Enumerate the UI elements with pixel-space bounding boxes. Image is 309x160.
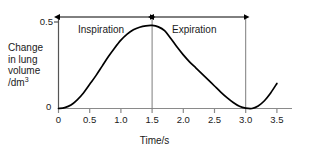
- x-tick-label-1.5: 1.5: [145, 114, 158, 125]
- y-axis-title-line-4: /dm3: [8, 77, 56, 89]
- y-axis-unit: /dm: [8, 77, 25, 88]
- lung-volume-curve: [59, 25, 277, 108]
- x-axis-title: Time/s: [0, 135, 309, 146]
- x-tick-label-2.5: 2.5: [208, 114, 221, 125]
- x-tick-label-3.0: 3.0: [239, 114, 252, 125]
- y-axis-unit-exponent: 3: [25, 75, 29, 82]
- y-tick-label-0: 0: [46, 101, 51, 112]
- y-axis-title-line-3: volume: [8, 65, 56, 77]
- x-tick-label-1.0: 1.0: [114, 114, 127, 125]
- y-tick-label-0.5: 0.5: [40, 16, 53, 27]
- x-tick-label-2.0: 2.0: [177, 114, 190, 125]
- y-axis-title-line-1: Change: [8, 42, 56, 54]
- annotation-label-inspiration: Inspiration: [78, 24, 124, 35]
- chart-figure: Change in lung volume /dm3 0.5 0 Inspira…: [0, 0, 309, 160]
- y-axis-title: Change in lung volume /dm3: [8, 42, 56, 88]
- y-axis-title-line-2: in lung: [8, 54, 56, 66]
- annotation-label-expiration: Expiration: [172, 24, 216, 35]
- x-tick-marks: [59, 109, 277, 114]
- x-tick-label-0: 0: [56, 114, 61, 125]
- x-tick-label-3.5: 3.5: [270, 114, 283, 125]
- x-tick-label-0.5: 0.5: [83, 114, 96, 125]
